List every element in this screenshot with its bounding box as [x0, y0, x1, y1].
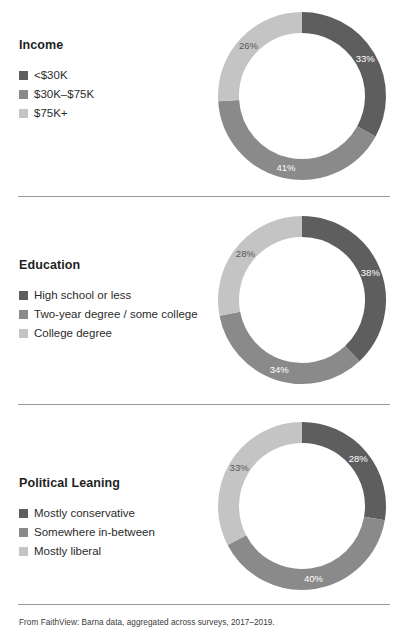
legend-item: Mostly conservative [19, 506, 155, 521]
legend-item-label: <$30K [34, 68, 68, 83]
section-title-income: Income [19, 38, 94, 52]
legend-item-label: Mostly liberal [34, 544, 101, 559]
legend-list-education: High school or less Two-year degree / so… [19, 288, 198, 341]
legend-swatch-icon [19, 71, 28, 80]
section-education: Education High school or less Two-year d… [0, 196, 404, 402]
section-income: Income <$30K $30K–$75K $75K+ 33%41%26% [0, 0, 404, 190]
legend-swatch-icon [19, 291, 28, 300]
donut-segment-label: 34% [270, 364, 290, 375]
section-title-education: Education [19, 258, 198, 272]
donut-chart-income: 33%41%26% [217, 11, 387, 181]
legend-list-income: <$30K $30K–$75K $75K+ [19, 68, 94, 121]
legend-item-label: Two-year degree / some college [34, 307, 198, 322]
legend-item-label: $30K–$75K [34, 87, 94, 102]
legend-item-label: High school or less [34, 288, 131, 303]
donut-segment[interactable] [302, 433, 376, 519]
legend-swatch-icon [19, 528, 28, 537]
legend-swatch-icon [19, 90, 28, 99]
legend-item: $30K–$75K [19, 87, 94, 102]
legend-swatch-icon [19, 310, 28, 319]
donut-segment-label: 28% [236, 248, 256, 259]
legend-item-label: College degree [34, 326, 112, 341]
legend-item: Mostly liberal [19, 544, 155, 559]
donut-segment[interactable] [302, 227, 376, 354]
legend-block-education: Education High school or less Two-year d… [19, 258, 198, 345]
legend-list-political: Mostly conservative Somewhere in-between… [19, 506, 155, 559]
section-divider [18, 604, 390, 605]
legend-item: <$30K [19, 68, 94, 83]
legend-block-political: Political Leaning Mostly conservative So… [19, 476, 155, 563]
donut-segment[interactable] [229, 101, 367, 170]
legend-item: Two-year degree / some college [19, 307, 198, 322]
donut-segment[interactable] [237, 519, 375, 580]
donut-segment[interactable] [228, 433, 302, 541]
donut-segment-label: 33% [230, 462, 250, 473]
donut-chart-political: 28%40%33% [217, 421, 387, 591]
legend-item: Somewhere in-between [19, 525, 155, 540]
donut-svg: 33%41%26% [217, 11, 387, 181]
legend-swatch-icon [19, 329, 28, 338]
section-divider [18, 404, 390, 405]
source-footnote: From FaithView: Barna data, aggregated a… [19, 618, 275, 627]
donut-svg: 28%40%33% [217, 421, 387, 591]
legend-block-income: Income <$30K $30K–$75K $75K+ [19, 38, 94, 125]
legend-item-label: $75K+ [34, 106, 68, 121]
donut-segment[interactable] [302, 23, 376, 132]
donut-segment-label: 33% [356, 53, 376, 64]
legend-item: High school or less [19, 288, 198, 303]
donut-segment-label: 38% [361, 267, 381, 278]
legend-item-label: Mostly conservative [34, 506, 135, 521]
section-political: Political Leaning Mostly conservative So… [0, 408, 404, 604]
donut-segment-label: 40% [304, 573, 324, 584]
legend-swatch-icon [19, 509, 28, 518]
legend-swatch-icon [19, 547, 28, 556]
section-title-political: Political Leaning [19, 476, 155, 490]
legend-item: $75K+ [19, 106, 94, 121]
donut-segment[interactable] [229, 227, 303, 314]
donut-segment[interactable] [230, 314, 353, 374]
infographic-page: Income <$30K $30K–$75K $75K+ 33%41%26% [0, 0, 404, 635]
donut-segment-label: 26% [239, 40, 259, 51]
donut-chart-education: 38%34%28% [217, 215, 387, 385]
donut-segment-label: 41% [276, 162, 296, 173]
donut-svg: 38%34%28% [217, 215, 387, 385]
donut-segment[interactable] [229, 23, 303, 101]
donut-segment-label: 28% [349, 453, 369, 464]
legend-swatch-icon [19, 109, 28, 118]
legend-item-label: Somewhere in-between [34, 525, 155, 540]
legend-item: College degree [19, 326, 198, 341]
